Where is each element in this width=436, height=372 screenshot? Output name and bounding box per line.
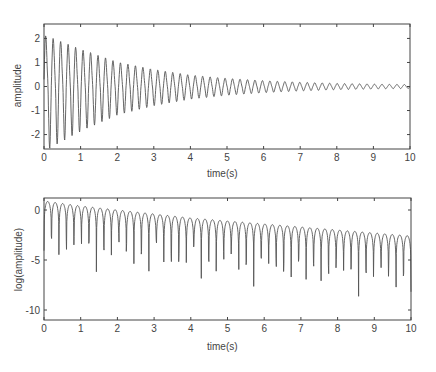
x-tick-label: 1	[78, 323, 84, 334]
x-tick-label: 2	[115, 323, 121, 334]
y-tick-label: -10	[26, 305, 41, 316]
x-tick-label: 8	[334, 152, 340, 163]
x-tick-label: 2	[114, 152, 120, 163]
top-series-line	[44, 36, 410, 148]
x-tick-label: 5	[224, 152, 230, 163]
y-tick-label: 1	[34, 57, 40, 68]
x-tick-label: 9	[371, 152, 377, 163]
chart-figure: 012345678910-2-1012012345678910-10-50	[0, 0, 436, 372]
y-tick-label: -5	[31, 255, 40, 266]
x-tick-label: 8	[335, 323, 341, 334]
bottom-axes: 012345678910-10-50	[26, 198, 417, 334]
x-tick-label: 0	[41, 323, 47, 334]
bottom-ylabel: log(amplitude)	[13, 220, 24, 300]
top-ylabel: amplitude	[12, 61, 23, 111]
bottom-xlabel: time(s)	[207, 341, 238, 352]
x-tick-label: 3	[151, 152, 157, 163]
x-tick-label: 6	[261, 323, 267, 334]
y-tick-label: 0	[34, 205, 40, 216]
y-tick-label: 2	[34, 33, 40, 44]
x-tick-label: 9	[372, 323, 378, 334]
x-tick-label: 4	[188, 323, 194, 334]
y-tick-label: 0	[34, 81, 40, 92]
top-axes: 012345678910-2-1012	[31, 24, 416, 163]
x-tick-label: 10	[405, 323, 417, 334]
x-tick-label: 6	[261, 152, 267, 163]
x-tick-label: 3	[151, 323, 157, 334]
top-xlabel: time(s)	[207, 168, 238, 179]
x-tick-label: 7	[297, 152, 303, 163]
x-tick-label: 5	[225, 323, 231, 334]
x-tick-label: 0	[41, 152, 47, 163]
y-tick-label: -2	[31, 129, 40, 140]
bottom-series-line	[44, 202, 411, 297]
y-tick-label: -1	[31, 105, 40, 116]
x-tick-label: 1	[78, 152, 84, 163]
x-tick-label: 7	[298, 323, 304, 334]
bottom-plot-frame	[44, 198, 411, 320]
x-tick-label: 10	[404, 152, 416, 163]
x-tick-label: 4	[188, 152, 194, 163]
